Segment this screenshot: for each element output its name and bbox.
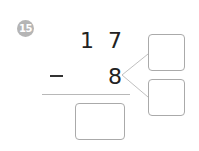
- answer-box[interactable]: [75, 103, 125, 140]
- decompose-box-bottom[interactable]: [148, 79, 185, 116]
- decompose-box-top[interactable]: [148, 34, 185, 71]
